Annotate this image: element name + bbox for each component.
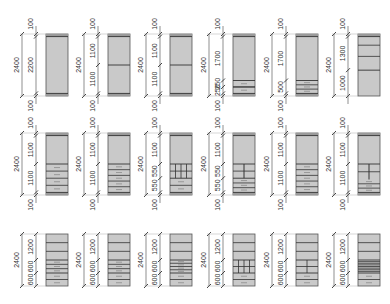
segment-dimension-label: 600 [89,274,96,286]
total-dimension-label: 2400 [137,252,144,268]
segment-dimension-label: 1100 [151,72,158,87]
segment-dimension-label: 1100 [27,171,34,186]
wardrobe-unit: 240010011001100100 [13,117,68,211]
total-dimension-label: 2400 [75,252,82,268]
total-dimension-label: 2400 [325,57,332,73]
segment-dimension-label: 1200 [27,239,34,255]
wardrobe-unit: 240010011001100100 [75,117,130,211]
segment-dimension-label: 600 [339,274,346,286]
segment-dimension-label: 1100 [151,142,158,157]
wardrobe-unit: 24001200600600 [75,232,130,288]
segment-dimension-label: 1100 [339,171,346,186]
segment-dimension-label: 550 [214,165,221,177]
segment-dimension-label: 100 [151,18,158,30]
total-dimension-label: 2400 [75,156,82,172]
segment-dimension-label: 250 [214,84,221,96]
segment-dimension-label: 100 [277,18,284,30]
segment-dimension-label: 1100 [214,142,221,157]
wardrobe-elevation-drawing: 2400100220010024001001100110010024001001… [0,0,390,304]
segment-dimension-label: 1200 [214,239,221,255]
segment-dimension-label: 600 [214,274,221,286]
wardrobe-unit: 24001200600600 [263,232,318,288]
segment-dimension-label: 550 [151,165,158,177]
total-dimension-label: 2400 [75,57,82,73]
segment-dimension-label: 100 [214,18,221,30]
segment-dimension-label: 1200 [89,239,96,255]
wardrobe-unit: 240010011001100100 [137,18,192,112]
segment-dimension-label: 100 [214,100,221,112]
total-dimension-label: 2400 [200,156,207,172]
segment-dimension-label: 1100 [277,171,284,186]
total-dimension-label: 2400 [325,156,332,172]
segment-dimension-label: 100 [89,117,96,129]
segment-dimension-label: 100 [214,117,221,129]
wardrobe-unit: 24001200600600 [13,232,68,288]
segment-dimension-label: 100 [27,18,34,30]
segment-dimension-label: 100 [339,18,346,30]
segment-dimension-label: 100 [151,100,158,112]
wardrobe-unit: 240010011001100100 [325,117,380,211]
wardrobe-unit: 24001001700500100 [263,18,318,112]
segment-dimension-label: 600 [151,261,158,273]
wardrobe-panel [358,34,380,96]
total-dimension-label: 2400 [200,57,207,73]
segment-dimension-label: 1700 [277,51,284,67]
segment-dimension-label: 100 [27,117,34,129]
wardrobe-unit: 240010013001000 [325,18,380,104]
segment-dimension-label: 1100 [27,142,34,157]
segment-dimension-label: 100 [277,199,284,211]
segment-dimension-label: 100 [214,199,221,211]
segment-dimension-label: 600 [151,274,158,286]
wardrobe-unit: 24001001100550550100 [200,117,255,211]
total-dimension-label: 2400 [13,252,20,268]
wardrobe-unit: 24001002200100 [13,18,68,112]
segment-dimension-label: 600 [277,261,284,273]
segment-dimension-label: 600 [214,261,221,273]
segment-dimension-label: 100 [151,117,158,129]
segment-dimension-label: 1100 [89,72,96,87]
segment-dimension-label: 550 [151,179,158,191]
segment-dimension-label: 600 [27,261,34,273]
wardrobe-unit: 24001200600600 [137,232,192,288]
segment-dimension-label: 100 [89,18,96,30]
wardrobe-unit: 240010011001100100 [75,18,130,112]
segment-dimension-label: 100 [277,117,284,129]
segment-dimension-label: 100 [339,117,346,129]
segment-dimension-label: 600 [89,261,96,273]
total-dimension-label: 2400 [13,156,20,172]
total-dimension-label: 2400 [137,57,144,73]
segment-dimension-label: 100 [277,100,284,112]
segment-dimension-label: 100 [151,199,158,211]
total-dimension-label: 2400 [200,252,207,268]
segment-dimension-label: 1100 [151,43,158,58]
segment-dimension-label: 100 [89,199,96,211]
segment-dimension-label: 600 [277,274,284,286]
total-dimension-label: 2400 [137,156,144,172]
segment-dimension-label: 1100 [89,43,96,58]
segment-dimension-label: 600 [339,261,346,273]
segment-dimension-label: 1100 [339,142,346,157]
segment-dimension-label: 600 [27,274,34,286]
wardrobe-unit: 24001200600600 [200,232,255,288]
segment-dimension-label: 1200 [277,239,284,255]
segment-dimension-label: 100 [27,100,34,112]
segment-dimension-label: 1100 [89,171,96,186]
segment-dimension-label: 1700 [214,51,221,67]
segment-dimension-label: 1300 [339,45,346,61]
total-dimension-label: 2400 [13,57,20,73]
wardrobe-panel [46,34,68,96]
wardrobe-unit: 24001001100550550100 [137,117,192,211]
total-dimension-label: 2400 [263,252,270,268]
segment-dimension-label: 1200 [339,239,346,255]
total-dimension-label: 2400 [263,57,270,73]
total-dimension-label: 2400 [325,252,332,268]
wardrobe-unit: 240010011001100100 [263,117,318,211]
segment-dimension-label: 500 [277,81,284,93]
segment-dimension-label: 100 [339,199,346,211]
segment-dimension-label: 1100 [277,142,284,157]
segment-dimension-label: 1100 [89,142,96,157]
segment-dimension-label: 2200 [27,57,34,73]
segment-dimension-label: 1200 [151,239,158,255]
segment-dimension-label: 100 [27,199,34,211]
segment-dimension-label: 550 [214,179,221,191]
